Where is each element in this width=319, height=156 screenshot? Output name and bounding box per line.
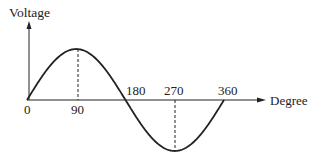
sine-wave-diagram [0,0,319,156]
x-axis-label: Degree [270,94,308,107]
tick-label-270: 270 [164,84,184,97]
y-axis-label: Voltage [9,6,50,20]
y-axis-arrow-icon [27,21,32,29]
x-axis-arrow-icon [257,98,266,103]
tick-label-0: 0 [24,103,31,116]
tick-label-90: 90 [71,103,84,116]
tick-label-180: 180 [126,84,146,97]
tick-label-360: 360 [218,84,238,97]
